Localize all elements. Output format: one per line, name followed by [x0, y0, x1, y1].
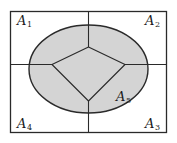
label-a3-letter: A: [145, 116, 154, 131]
label-a3: A3: [145, 117, 160, 132]
label-a1-subscript: 1: [27, 20, 32, 29]
label-a4: A4: [17, 117, 32, 132]
label-a2-subscript: 2: [155, 20, 160, 29]
label-a1-letter: A: [17, 13, 26, 28]
label-a2-letter: A: [145, 13, 154, 28]
label-a4-letter: A: [17, 116, 26, 131]
label-a5: A5: [116, 90, 131, 105]
label-a5-subscript: 5: [126, 96, 131, 105]
label-a1: A1: [17, 14, 32, 29]
label-a2: A2: [145, 14, 160, 29]
partition-diagram: A1 A2 A3 A4 A5: [0, 0, 177, 143]
label-a4-subscript: 4: [27, 123, 32, 132]
label-a3-subscript: 3: [155, 123, 160, 132]
label-a5-letter: A: [116, 89, 125, 104]
